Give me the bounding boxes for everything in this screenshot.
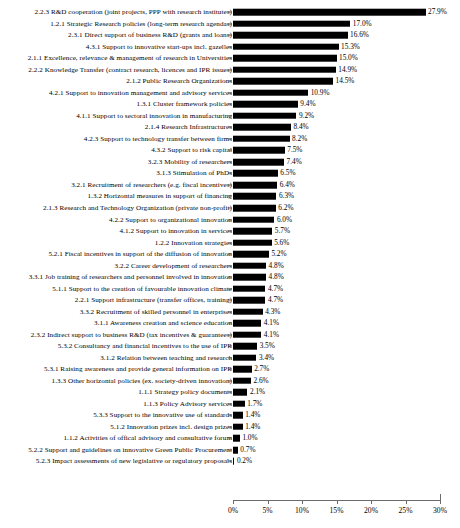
x-axis-tick-label: 10% xyxy=(295,506,309,515)
category-label: 1.1.2 Activities of offical advisory and… xyxy=(63,434,232,442)
category-tick xyxy=(228,23,232,24)
bar xyxy=(233,216,274,223)
chart-row: 5.1.2 Innovation prizes incl. design pri… xyxy=(0,421,460,433)
category-label: 2.2.1 Support infrastructure (transfer o… xyxy=(75,296,232,304)
bar xyxy=(233,251,269,258)
bar-value-label: 9.2% xyxy=(299,112,314,120)
bar-value-label: 7.4% xyxy=(287,158,302,166)
category-tick xyxy=(228,231,232,232)
category-label: 5.1.2 Innovation prizes incl. design pri… xyxy=(110,423,232,431)
bar xyxy=(233,182,277,189)
category-label: 4.2.3 Support to technology transfer bet… xyxy=(84,135,232,143)
chart-row: 5.3.3 Support to the innovative use of s… xyxy=(0,410,460,422)
bar-value-label: 0.7% xyxy=(240,446,255,454)
bar-value-label: 6.0% xyxy=(277,216,292,224)
bar-value-label: 3.4% xyxy=(259,354,274,362)
chart-row: 3.3.1 Job training of researchers and pe… xyxy=(0,271,460,283)
bar xyxy=(233,124,291,131)
category-tick xyxy=(228,357,232,358)
bar-value-label: 2.6% xyxy=(253,377,268,385)
category-label: 1.2.1 Strategic Research policies (long-… xyxy=(50,20,232,28)
bar xyxy=(233,32,348,39)
bar-value-label: 4.3% xyxy=(265,308,280,316)
category-tick xyxy=(228,207,232,208)
category-tick xyxy=(228,81,232,82)
category-label: 5.1.1 Support to the creation of favoura… xyxy=(52,285,232,293)
chart-row: 3.2.2 Career development of researchers4… xyxy=(0,260,460,272)
chart-row: 4.1.2 Support to innovation in services5… xyxy=(0,225,460,237)
category-label: 4.2.1 Support to innovation management a… xyxy=(49,89,232,97)
category-tick xyxy=(228,403,232,404)
category-tick xyxy=(228,46,232,47)
bar-value-label: 8.4% xyxy=(293,123,308,131)
category-label: 5.3.3 Support to the innovative use of s… xyxy=(93,411,232,419)
category-tick xyxy=(228,92,232,93)
bar xyxy=(233,55,337,62)
category-tick xyxy=(228,392,232,393)
bar-value-label: 6.5% xyxy=(280,169,295,177)
category-label: 3.1.3 Stimulation of PhDs xyxy=(156,169,232,177)
bar-value-label: 1.0% xyxy=(242,434,257,442)
chart-row: 3.3.2 Recruitment of skilled personnel i… xyxy=(0,306,460,318)
bar-value-label: 15.0% xyxy=(339,54,358,62)
category-label: 3.3.1 Job training of researchers and pe… xyxy=(29,273,232,281)
chart-row: 1.3.1 Cluster framework policies9.4% xyxy=(0,99,460,111)
category-label: 2.1.4 Research Infrastructures xyxy=(145,123,232,131)
chart-row: 1.2.1 Strategic Research policies (long-… xyxy=(0,18,460,30)
category-label: 3.2.1 Recruitment of researchers (e.g. f… xyxy=(71,181,232,189)
category-label: 3.3.2 Recruitment of skilled personnel i… xyxy=(80,308,232,316)
chart-row: 3.2.3 Mobility of researchers7.4% xyxy=(0,156,460,168)
bar xyxy=(233,412,243,419)
chart-row: 2.2.3 R&D cooperation (joint projects, P… xyxy=(0,6,460,18)
chart-row: 2.3.1 Direct support of business R&D (gr… xyxy=(0,29,460,41)
category-label: 1.1.3 Policy Advisory services xyxy=(143,400,232,408)
bar xyxy=(233,159,284,166)
category-tick xyxy=(228,438,232,439)
category-tick xyxy=(228,35,232,36)
bar xyxy=(233,205,276,212)
category-tick xyxy=(228,58,232,59)
x-axis-tick-label: 0% xyxy=(228,506,238,515)
chart-row: 2.1.4 Research Infrastructures8.4% xyxy=(0,122,460,134)
bar xyxy=(233,366,252,373)
category-label: 1.3.1 Cluster framework policies xyxy=(137,100,232,108)
bar xyxy=(233,331,261,338)
category-tick xyxy=(228,369,232,370)
bar xyxy=(233,435,240,442)
bar xyxy=(233,458,234,465)
category-label: 5.2.2 Support and guidelines on innovati… xyxy=(28,446,232,454)
bar xyxy=(233,113,296,120)
chart-row: 3.1.3 Stimulation of PhDs6.5% xyxy=(0,168,460,180)
category-label: 2.3.2 Indirect support to business R&D (… xyxy=(31,331,232,339)
x-axis-tick xyxy=(371,500,372,504)
category-tick xyxy=(228,69,232,70)
bar-value-label: 16.6% xyxy=(350,31,369,39)
bar-value-label: 4.1% xyxy=(264,319,279,327)
horizontal-bar-chart: 2.2.3 R&D cooperation (joint projects, P… xyxy=(0,0,460,528)
bar-value-label: 4.1% xyxy=(264,331,279,339)
chart-row: 5.2.3 Impact assessments of new legislat… xyxy=(0,456,460,468)
chart-row: 5.3.1 Raising awareness and provide gene… xyxy=(0,364,460,376)
bar xyxy=(233,147,285,154)
bar-value-label: 6.4% xyxy=(280,181,295,189)
category-label: 5.2.3 Impact assessments of new legislat… xyxy=(36,457,232,465)
category-tick xyxy=(228,346,232,347)
chart-row: 1.2.2 Innovation strategies5.6% xyxy=(0,237,460,249)
category-label: 4.3.1 Support to innovative start-ups in… xyxy=(86,43,232,51)
category-tick xyxy=(228,334,232,335)
chart-row: 1.3.3 Other horizontal policies (ex. soc… xyxy=(0,375,460,387)
category-tick xyxy=(228,380,232,381)
x-axis-tick-label: 25% xyxy=(399,506,413,515)
category-label: 2.2.2 Knowledge Transfer (contract resea… xyxy=(28,66,232,74)
bar-value-label: 1.4% xyxy=(245,423,260,431)
bar xyxy=(233,447,238,454)
x-axis-tick-label: 5% xyxy=(262,506,272,515)
chart-row: 1.3.2 Horizontal measures in support of … xyxy=(0,191,460,203)
bar-value-label: 9.4% xyxy=(300,100,315,108)
chart-row: 3.1.2 Relation between teaching and rese… xyxy=(0,352,460,364)
bar xyxy=(233,193,276,200)
bar-value-label: 4.8% xyxy=(269,262,284,270)
chart-row: 1.1.2 Activities of offical advisory and… xyxy=(0,433,460,445)
category-tick xyxy=(228,277,232,278)
chart-row: 1.1.3 Policy Advisory services1.7% xyxy=(0,398,460,410)
